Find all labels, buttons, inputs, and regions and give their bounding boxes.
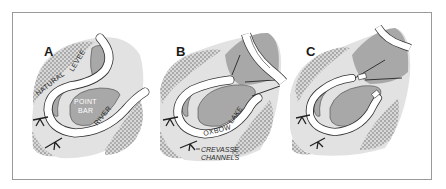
- panel-label-b: B: [176, 44, 185, 59]
- label-bar: BAR: [78, 107, 93, 114]
- meander-diagram: A NATURAL LEVEE POINT BAR RIVER B OXBOW: [0, 0, 446, 189]
- panel-b: B OXBOW LAKE CREVASSE CHANNELS: [160, 33, 283, 161]
- panel-a: A NATURAL LEVEE POINT BAR RIVER: [32, 37, 145, 158]
- panel-label-c: C: [306, 44, 316, 59]
- panel-c: C: [290, 27, 410, 156]
- label-crevasse: CREVASSE: [201, 146, 239, 153]
- label-channels: CHANNELS: [201, 154, 239, 161]
- label-point: POINT: [74, 98, 97, 105]
- panel-label-a: A: [44, 44, 54, 59]
